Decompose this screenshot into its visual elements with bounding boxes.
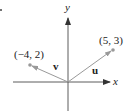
vector-u [68, 51, 111, 82]
point-u [111, 48, 115, 52]
vector-v-label: v [53, 60, 59, 72]
y-axis-label: y [64, 1, 70, 13]
point-v-label: (−4, 2) [14, 48, 44, 61]
x-axis-label: x [112, 75, 118, 87]
vector-u-label: u [92, 64, 98, 76]
bullet-marker [0, 9, 2, 11]
vector-v [32, 66, 68, 82]
point-v [28, 63, 32, 67]
point-u-label: (5, 3) [99, 34, 123, 47]
vector-diagram: x y u (5, 3) v (−4, 2) [0, 0, 127, 111]
